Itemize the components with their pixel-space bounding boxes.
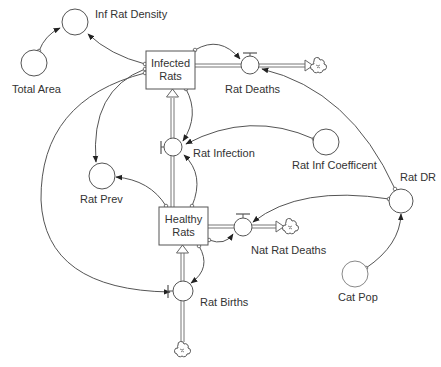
flow-rat-births[interactable]: Rat Births: [168, 281, 249, 308]
converter-rat-prev[interactable]: Rat Prev: [80, 163, 123, 205]
stock-label: Infected: [151, 57, 190, 69]
connector-cat-pop-to-rat-dr: [366, 214, 401, 268]
converter-label: Cat Pop: [338, 291, 378, 303]
flow-label: Rat Births: [200, 296, 249, 308]
connector-infected-to-inf-rat-density: [88, 34, 145, 64]
stock-infected-rats[interactable]: Infected Rats: [146, 51, 195, 89]
valve-icon: [164, 138, 182, 156]
stock-label: Rats: [172, 226, 195, 238]
connector-healthy-to-rat-prev: [116, 177, 166, 206]
flow-label: Nat Rat Deaths: [251, 244, 327, 256]
converter-rat-dr[interactable]: Rat DR: [389, 171, 436, 213]
converter-inf-rat-density[interactable]: Inf Rat Density: [62, 8, 168, 35]
connector-healthy-to-nat-rat-deaths: [209, 234, 233, 242]
valve-icon: [234, 218, 252, 236]
cloud-icon: [282, 218, 298, 233]
connector-healthy-to-rat-births: [191, 246, 204, 283]
stock-healthy-rats[interactable]: Healthy Rats: [159, 207, 208, 245]
converter-cat-pop[interactable]: Cat Pop: [338, 261, 378, 303]
converter-label: Rat DR: [400, 171, 436, 183]
converter-label: Inf Rat Density: [95, 8, 168, 20]
cloud-icon: [310, 57, 326, 72]
cloud-icon: [174, 341, 190, 356]
flow-nat-rat-deaths[interactable]: Nat Rat Deaths: [234, 214, 327, 256]
converter-total-area[interactable]: Total Area: [12, 50, 62, 95]
flow-label: Rat Deaths: [225, 83, 281, 95]
flow-rat-deaths[interactable]: Rat Deaths: [225, 53, 281, 95]
valve-icon: [173, 281, 193, 301]
stock-flow-diagram: Infected Rats Healthy Rats Rat Deaths Ra…: [0, 0, 441, 367]
flow-rat-infection[interactable]: Rat Infection: [161, 138, 255, 159]
stock-label: Rats: [159, 70, 182, 82]
connector-infected-to-rat-deaths: [195, 44, 240, 59]
connector-infected-to-rat-infection: [183, 89, 192, 141]
connector-infected-to-rat-prev: [95, 69, 145, 162]
connector-rat-dr-to-nat-rat-deaths: [253, 195, 389, 222]
connector-coefficent-to-rat-infection: [186, 126, 314, 144]
converter-label: Total Area: [12, 83, 62, 95]
connector-total-area-to-inf-rat-density: [39, 28, 60, 51]
converter-label: Rat Inf Coefficent: [292, 159, 377, 171]
valve-icon: [241, 56, 259, 74]
stock-label: Healthy: [165, 213, 203, 225]
converter-label: Rat Prev: [80, 193, 123, 205]
flow-label: Rat Infection: [193, 147, 255, 159]
connector-healthy-to-rat-infection: [184, 155, 197, 206]
